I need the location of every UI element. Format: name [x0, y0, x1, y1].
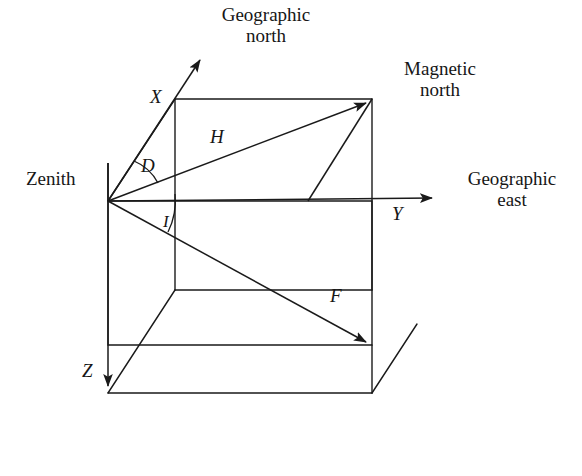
label-axis-z: Z: [82, 360, 93, 381]
label-magnetic-north: Magnetic north: [372, 58, 508, 101]
edge-far: [372, 188, 439, 290]
box-perspective-struts: [372, 324, 417, 393]
magnetic-declination-edge: [308, 99, 372, 201]
label-geographic-north: Geographic north: [196, 4, 336, 47]
edge-fbr-diagonal: [372, 243, 439, 345]
edge-fronttopright-to-backtopright: [372, 99, 439, 201]
label-axis-x: X: [150, 86, 162, 107]
label-component-h: H: [210, 126, 224, 147]
strut-bottom-right-back: [372, 324, 417, 393]
vector-f-total-field: [108, 201, 366, 342]
label-axis-y: Y: [392, 203, 403, 224]
label-zenith: Zenith: [26, 168, 102, 189]
edge-bottomleft-diagonal: [108, 290, 175, 393]
label-geographic-east: Geographic east: [444, 168, 580, 211]
label-component-f: F: [330, 285, 342, 306]
vector-h-horizontal: [108, 103, 366, 201]
label-angle-declination: D: [141, 155, 155, 176]
label-angle-inclination: I: [163, 212, 169, 231]
figure-canvas: Geographic north Magnetic north Geograph…: [0, 0, 582, 476]
edge-frontbottomleft-to-backbottomleft: [108, 243, 175, 345]
axes: [108, 60, 432, 386]
axis-x-geographic-north: [108, 60, 200, 201]
box-wireframe: [108, 99, 439, 393]
